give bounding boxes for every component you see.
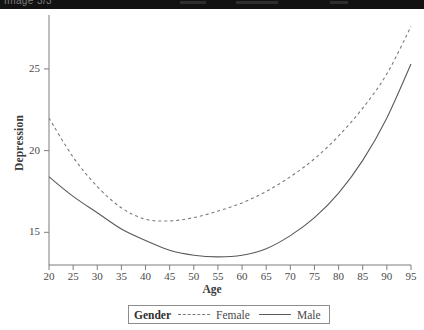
band-smudge-a: [180, 1, 206, 4]
legend-label: Male: [297, 309, 321, 321]
x-tick-label: 80: [327, 270, 351, 282]
legend-title: Gender: [134, 309, 171, 321]
band-smudge-c: [330, 1, 348, 4]
depression-by-age-chart: Depression Age 2025303540455055606570758…: [0, 9, 424, 330]
x-tick-label: 20: [37, 270, 61, 282]
x-tick-label: 40: [134, 270, 158, 282]
legend[interactable]: Gender FemaleMale: [128, 305, 330, 324]
x-tick-label: 45: [158, 270, 182, 282]
y-tick-label: 15: [16, 225, 40, 237]
x-tick-label: 50: [182, 270, 206, 282]
x-tick-label: 55: [206, 270, 230, 282]
x-axis-title: Age: [0, 283, 424, 295]
y-axis-ticks: [44, 69, 49, 232]
x-tick-label: 75: [302, 270, 326, 282]
legend-entry-female[interactable]: Female: [178, 309, 250, 321]
series-line-female: [49, 26, 411, 221]
legend-label: Female: [216, 309, 250, 321]
x-tick-label: 65: [254, 270, 278, 282]
y-tick-label: 20: [16, 144, 40, 156]
x-tick-label: 70: [278, 270, 302, 282]
x-tick-label: 60: [230, 270, 254, 282]
x-tick-label: 35: [109, 270, 133, 282]
band-smudge-b: [236, 1, 278, 4]
x-tick-label: 85: [351, 270, 375, 282]
cropped-band-text: Image 3/3: [4, 0, 52, 6]
legend-entry-male[interactable]: Male: [259, 309, 321, 321]
x-tick-label: 90: [375, 270, 399, 282]
legend-swatch-solid-line-icon: [259, 314, 291, 316]
legend-entries: FemaleMale: [178, 309, 330, 321]
legend-swatch-dashed-line-icon: [178, 314, 210, 316]
cropped-browser-band: Image 3/3: [0, 0, 424, 9]
series-line-male: [49, 64, 411, 257]
x-tick-label: 30: [85, 270, 109, 282]
y-tick-label: 25: [16, 62, 40, 74]
x-tick-label: 95: [399, 270, 423, 282]
x-tick-label: 25: [61, 270, 85, 282]
